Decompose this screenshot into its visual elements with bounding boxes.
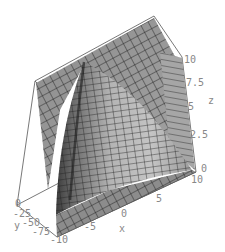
z-tick-7.5: 7.5: [186, 78, 204, 88]
z-axis-label: z: [208, 96, 214, 106]
y-axis-label: y: [14, 221, 20, 231]
z-tick-2.5: 2.5: [190, 130, 208, 140]
z-tick-5: 5: [188, 102, 194, 112]
z-tick-10: 10: [184, 55, 196, 65]
x-tick-minus-10: -10: [50, 235, 68, 245]
x-tick-5: 5: [156, 194, 162, 204]
x-tick-10: 10: [191, 175, 203, 185]
x-tick-minus-5: -5: [84, 222, 96, 232]
y-tick-minus-75: -75: [32, 227, 50, 237]
z-tick-0: 0: [201, 164, 207, 174]
x-tick-0: 0: [121, 209, 127, 219]
x-axis-label: x: [119, 224, 125, 234]
surface-plot: [0, 0, 225, 252]
